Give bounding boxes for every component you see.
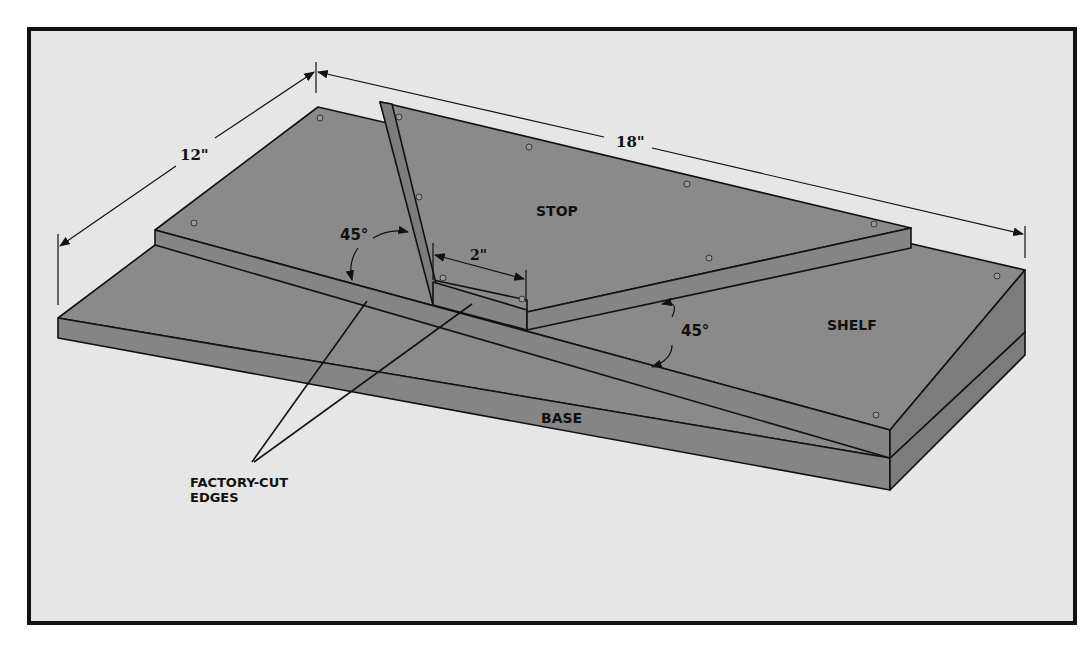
screw-icon — [526, 144, 532, 150]
jig-diagram: 12" 18" 2" 45° 45° STOP SHELF BASE FACTO… — [0, 0, 1085, 647]
screw-icon — [416, 194, 422, 200]
screw-icon — [706, 255, 712, 261]
factory-cut-label-line2: EDGES — [190, 490, 239, 505]
angle-right-label: 45° — [681, 322, 709, 340]
angle-left-label: 45° — [340, 226, 368, 244]
base-label: BASE — [541, 410, 582, 426]
screw-icon — [873, 412, 879, 418]
factory-cut-label-line1: FACTORY-CUT — [190, 475, 288, 490]
stop-label: STOP — [536, 203, 578, 219]
dimension-18-label: 18" — [616, 133, 645, 151]
shelf-label: SHELF — [827, 317, 877, 333]
dimension-12-label: 12" — [180, 146, 209, 164]
screw-icon — [440, 275, 446, 281]
screw-icon — [317, 115, 323, 121]
screw-icon — [191, 220, 197, 226]
screw-icon — [684, 181, 690, 187]
screw-icon — [994, 273, 1000, 279]
screw-icon — [396, 114, 402, 120]
dimension-2-label: 2" — [470, 247, 487, 263]
screw-icon — [871, 221, 877, 227]
screw-icon — [519, 296, 525, 302]
